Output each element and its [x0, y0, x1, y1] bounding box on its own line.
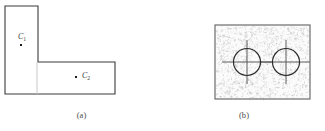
- panel-b: (b): [163, 0, 325, 131]
- point-label-subscript: 1: [23, 36, 26, 42]
- point-label-c1: C1: [18, 32, 26, 41]
- l-shape-diagram: [0, 0, 163, 105]
- point-marker-c1: [20, 44, 22, 46]
- caption-b: (b): [163, 110, 325, 120]
- figure-root: C1 C2 (a) (b): [0, 0, 325, 131]
- point-label-c2: C2: [82, 71, 90, 80]
- point-label-subscript: 2: [87, 75, 90, 81]
- point-marker-c2: [75, 76, 77, 78]
- l-shape-outline: [5, 6, 115, 94]
- speckle-circles-diagram: [163, 0, 325, 105]
- panel-a: C1 C2 (a): [0, 0, 163, 131]
- caption-a: (a): [0, 110, 163, 120]
